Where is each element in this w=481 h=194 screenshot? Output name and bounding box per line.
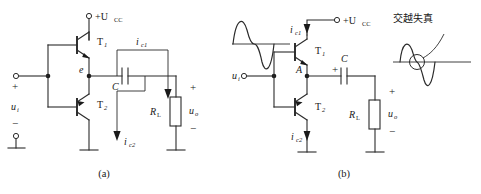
t2-emitter-arrow-a — [78, 101, 85, 106]
rl-label-a: R — [149, 106, 156, 117]
uo-minus-a: − — [190, 122, 196, 134]
t1-label-a: T — [97, 36, 103, 47]
t2-collector-lead-b — [295, 112, 307, 120]
circuit-figure: +U CC T 1 T 2 + u i − — [0, 0, 481, 194]
input-terminal-neg-a[interactable] — [13, 133, 18, 138]
load-resistor-a — [170, 97, 181, 126]
uo-plus-a: + — [190, 81, 196, 93]
panel-b: u i +U CC T 1 i c1 T 2 — [232, 12, 471, 180]
ui-label-sub-a: i — [17, 106, 19, 113]
input-minus-a: − — [12, 117, 18, 129]
t1-label-sub-b: 1 — [322, 50, 325, 57]
ic2-label-a: i — [124, 136, 127, 147]
annotation-leader-b — [423, 34, 444, 58]
rl-label-sub-a: L — [157, 111, 161, 118]
uo-label-a: u — [189, 105, 194, 116]
t1-label-b: T — [315, 45, 321, 56]
uo-label-b: u — [388, 108, 393, 119]
figure-svg: +U CC T 1 T 2 + u i − — [0, 0, 481, 194]
capacitor-label-b: C — [341, 53, 348, 64]
input-plus-a: + — [12, 80, 18, 92]
crossover-distortion-annotation: 交越失真 — [393, 12, 433, 24]
ic1-path-a — [117, 50, 168, 92]
supply-label-a: +U — [95, 11, 109, 22]
load-resistor-b — [369, 100, 380, 129]
rl-label-b: R — [348, 109, 355, 120]
t2-label-sub-a: 2 — [104, 104, 108, 111]
ic2-label-sub-a: c2 — [129, 141, 136, 148]
rl-label-sub-b: L — [356, 114, 360, 121]
caption-a: (a) — [98, 168, 110, 180]
ui-label-sub-b: i — [238, 75, 240, 82]
input-waveform-b — [233, 21, 274, 69]
uo-label-sub-b: o — [394, 113, 398, 120]
ic1-label-sub-b: c1 — [295, 29, 301, 36]
t1-collector-lead-a — [77, 32, 89, 40]
t2-emitter-lead-a — [77, 94, 89, 102]
t2-emitter-lead-b — [295, 94, 307, 102]
t2-label-b: T — [315, 101, 321, 112]
ui-label-b: u — [232, 70, 237, 81]
ic1-arrow-b — [304, 24, 311, 34]
ic2-label-b: i — [291, 131, 294, 142]
t1-collector-lead-b — [295, 39, 307, 47]
t2-label-a: T — [97, 99, 103, 110]
uo-plus-b: + — [389, 85, 395, 97]
ic2-path-a — [117, 76, 145, 134]
node-a-label-b: A — [295, 64, 303, 75]
output-waveform-b — [400, 44, 435, 85]
supply-terminal-a[interactable] — [86, 13, 91, 18]
cap-plus-b: + — [332, 63, 338, 75]
panel-a: +U CC T 1 T 2 + u i − — [8, 11, 199, 180]
uo-label-sub-a: o — [195, 110, 199, 117]
uo-minus-b: − — [389, 125, 395, 137]
t2-collector-lead-a — [77, 112, 89, 120]
t1-label-sub-a: 1 — [104, 41, 107, 48]
ic1-label-a: i — [136, 36, 139, 47]
t2-label-sub-b: 2 — [322, 106, 326, 113]
ic1-label-sub-a: c1 — [141, 41, 147, 48]
supply-label-sub-a: CC — [114, 16, 123, 23]
node-e-label-a: e — [79, 64, 84, 75]
caption-b: (b) — [338, 168, 351, 180]
supply-label-b: +U — [343, 15, 357, 26]
input-terminal-b[interactable] — [241, 73, 246, 78]
ic2-arrow-a — [113, 131, 120, 141]
t2-emitter-arrow-b — [296, 101, 303, 106]
input-terminal-pos-a[interactable] — [13, 73, 18, 78]
ic2-arrow-b — [304, 131, 311, 141]
capacitor-label-a: C — [112, 81, 119, 92]
ui-label-a: u — [11, 101, 16, 112]
supply-terminal-b[interactable] — [334, 17, 339, 22]
supply-label-sub-b: CC — [362, 20, 371, 27]
ic1-label-b: i — [290, 24, 293, 35]
ic2-label-sub-b: c2 — [296, 136, 303, 143]
supply-rail-b — [307, 20, 334, 35]
